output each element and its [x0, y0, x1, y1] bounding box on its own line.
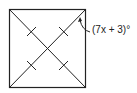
angle-label: (7x + 3)°	[92, 24, 130, 35]
arrowhead-icon	[78, 17, 82, 22]
square-diagram	[0, 0, 137, 93]
